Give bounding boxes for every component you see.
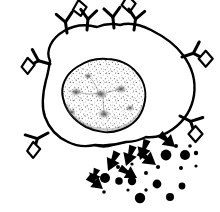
granule (194, 151, 198, 155)
granule (116, 165, 120, 169)
granule (174, 144, 178, 148)
antigen-diamond (199, 51, 213, 67)
granule (156, 165, 160, 169)
antigen-diamond (27, 142, 40, 158)
granule (102, 190, 106, 194)
arrow-7 (118, 165, 137, 178)
receptor-left-lower (17, 125, 56, 163)
cell-illustration (0, 0, 220, 212)
arrow-3 (123, 145, 136, 166)
granule (126, 188, 129, 191)
granule (180, 150, 190, 160)
granule (100, 173, 110, 183)
antigen-diamond (189, 126, 203, 142)
granule (144, 171, 148, 175)
granule (194, 164, 197, 167)
granule (144, 188, 147, 191)
granule (130, 162, 133, 165)
granule (179, 166, 183, 170)
granule (115, 177, 123, 185)
granule (135, 193, 145, 203)
cell-diagram-figure (0, 0, 220, 212)
granule (166, 193, 174, 201)
granule (149, 157, 152, 160)
antigen-diamond (22, 58, 35, 74)
granule (128, 177, 136, 185)
granule (179, 183, 186, 190)
granule (188, 144, 192, 148)
granule (153, 180, 162, 189)
granule (161, 150, 172, 161)
